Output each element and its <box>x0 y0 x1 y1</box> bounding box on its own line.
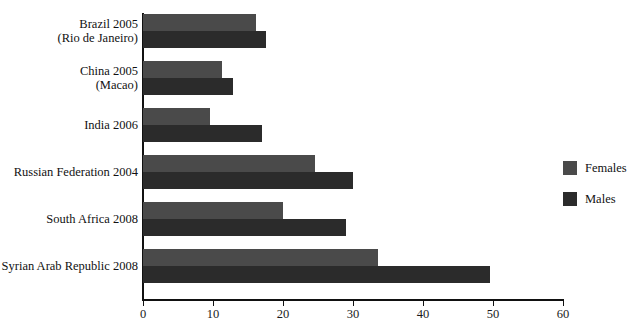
category-label-line: China 2005 <box>0 64 138 79</box>
x-axis-tick <box>423 300 424 306</box>
bar-males <box>143 172 353 189</box>
x-axis-tick-label: 10 <box>193 307 233 321</box>
bar-group <box>143 249 563 283</box>
x-axis-tick <box>563 300 564 306</box>
bar-females <box>143 202 283 219</box>
category-label: Brazil 2005(Rio de Janeiro) <box>0 17 143 46</box>
category-labels: Brazil 2005(Rio de Janeiro)China 2005(Ma… <box>0 0 143 300</box>
x-axis-tick <box>143 300 144 306</box>
category-label: China 2005(Macao) <box>0 64 143 93</box>
x-axis-tick-label: 20 <box>263 307 303 321</box>
bar-females <box>143 14 256 31</box>
bar-males <box>143 219 346 236</box>
category-label-line: Brazil 2005 <box>0 17 138 32</box>
legend-swatch-icon <box>563 192 577 206</box>
legend-label: Males <box>585 192 616 206</box>
bar-group <box>143 14 563 48</box>
x-axis-tick <box>353 300 354 306</box>
bar-females <box>143 155 315 172</box>
x-axis-tick-label: 60 <box>543 307 583 321</box>
plot-area <box>143 14 563 283</box>
bar-group <box>143 155 563 189</box>
category-label: Syrian Arab Republic 2008 <box>0 259 143 274</box>
x-axis-tick-label: 40 <box>403 307 443 321</box>
x-axis-tick <box>213 300 214 306</box>
bar-females <box>143 108 210 125</box>
bar-males <box>143 78 233 95</box>
bar-group <box>143 108 563 142</box>
x-axis-tick <box>493 300 494 306</box>
category-label-line: India 2006 <box>0 118 138 133</box>
category-label-line: South Africa 2008 <box>0 212 138 227</box>
bar-males <box>143 31 266 48</box>
legend-item-females[interactable]: Females <box>563 160 627 176</box>
category-label: South Africa 2008 <box>0 212 143 227</box>
category-label: India 2006 <box>0 118 143 133</box>
bar-males <box>143 125 262 142</box>
x-axis-tick <box>283 300 284 306</box>
category-label-line: Syrian Arab Republic 2008 <box>0 259 138 274</box>
bar-group <box>143 202 563 236</box>
bar-males <box>143 266 490 283</box>
x-axis-tick-label: 50 <box>473 307 513 321</box>
x-axis-tick-label: 0 <box>123 307 163 321</box>
category-label-line: (Rio de Janeiro) <box>0 31 138 46</box>
x-axis-tick-label: 30 <box>333 307 373 321</box>
bar-chart: Brazil 2005(Rio de Janeiro)China 2005(Ma… <box>0 0 639 331</box>
category-label-line: (Macao) <box>0 78 138 93</box>
legend-label: Females <box>585 161 627 175</box>
category-label-line: Russian Federation 2004 <box>0 165 138 180</box>
bar-females <box>143 249 378 266</box>
bar-group <box>143 61 563 95</box>
bar-females <box>143 61 222 78</box>
legend-swatch-icon <box>563 161 577 175</box>
legend-item-males[interactable]: Males <box>563 191 616 207</box>
category-label: Russian Federation 2004 <box>0 165 143 180</box>
